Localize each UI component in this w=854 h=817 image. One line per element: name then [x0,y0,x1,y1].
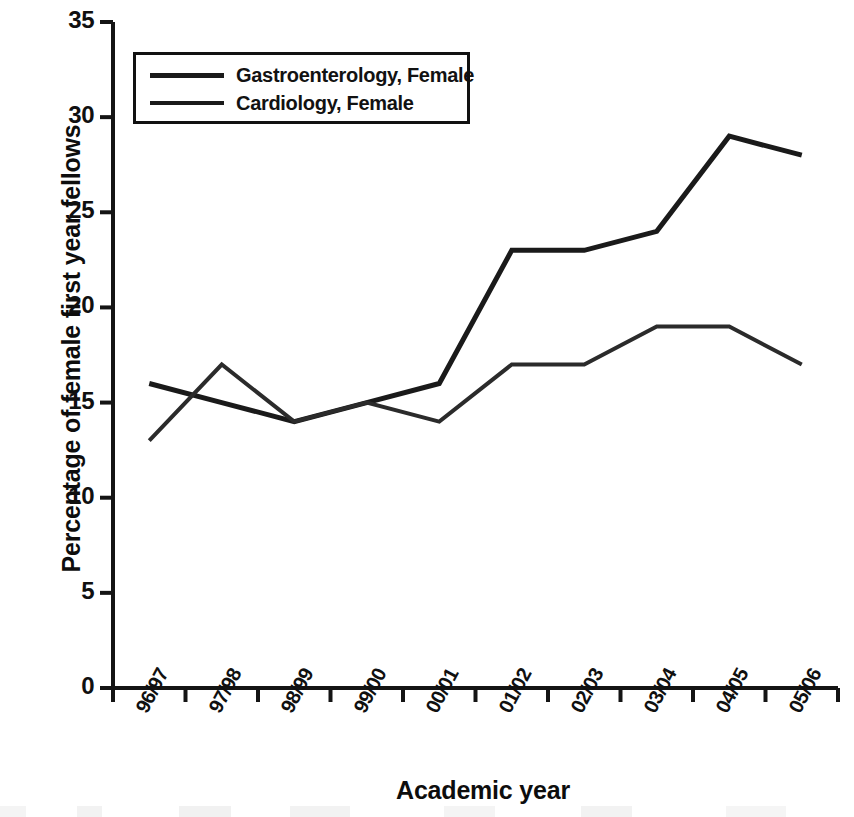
legend-entry-cardiology: Cardiology, Female [150,88,414,118]
data-series-lines [149,136,802,440]
y-tick-label: 15 [42,387,94,415]
line-chart: Percentage of female first year fellows … [0,0,854,817]
x-axis-title: Academic year [113,776,853,805]
y-tick-label: 0 [42,672,94,700]
y-tick-label: 20 [42,291,94,319]
y-tick-label: 25 [42,196,94,224]
legend-entry-gastroenterology: Gastroenterology, Female [150,60,474,90]
y-tick-label: 30 [42,101,94,129]
legend-line-swatch-icon [150,73,224,78]
series-line-cardiology [149,326,802,440]
legend-label: Cardiology, Female [236,92,414,115]
y-tick-label: 10 [42,482,94,510]
legend-label: Gastroenterology, Female [236,64,474,87]
y-tick-label: 35 [42,6,94,34]
series-line-gastroenterology [149,136,802,421]
y-tick-label: 5 [42,577,94,605]
legend-line-swatch-icon [150,101,224,105]
chart-legend: Gastroenterology, Female Cardiology, Fem… [133,52,470,124]
scan-artifact [0,806,854,817]
